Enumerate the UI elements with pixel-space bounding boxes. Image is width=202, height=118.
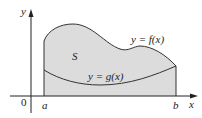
y-axis-arrow-icon bbox=[29, 9, 34, 17]
area-between-curves-figure: y x 0 a b S y = f(x) y = g(x) bbox=[0, 0, 202, 118]
g-curve-label: y = g(x) bbox=[87, 70, 124, 83]
f-curve-label: y = f(x) bbox=[130, 33, 164, 46]
x-axis-label: x bbox=[188, 98, 194, 110]
b-label: b bbox=[173, 99, 179, 111]
y-axis-label: y bbox=[20, 5, 26, 17]
a-label: a bbox=[42, 99, 48, 111]
region-s-label: S bbox=[72, 50, 78, 62]
origin-label: 0 bbox=[21, 96, 27, 108]
diagram-canvas: y x 0 a b S y = f(x) y = g(x) bbox=[0, 0, 202, 118]
